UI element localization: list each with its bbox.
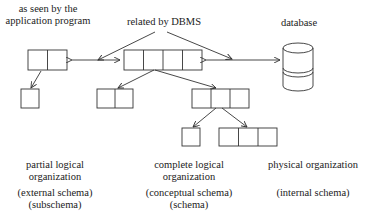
external-schema-line1: (external schema) — [10, 187, 100, 199]
arrow-external-to-child — [31, 71, 41, 88]
arrow-conceptual-to-right-child — [155, 70, 216, 88]
app-view-label-line2: application program — [0, 15, 96, 27]
physical-title-line1: physical organization — [258, 159, 368, 171]
arrow-dbms-to-left-link — [98, 32, 155, 60]
arrow-right-child-to-grandchild-left — [193, 108, 216, 127]
external-title-line2: organization — [10, 171, 100, 183]
arrow-right-child-to-grandchild-right — [222, 108, 247, 127]
physical-column-label: physical organization (internal schema) — [258, 159, 368, 199]
external-child-box — [21, 89, 39, 108]
conceptual-child-box-right — [192, 89, 249, 108]
conceptual-column-label: complete logical organization (conceptua… — [134, 159, 244, 211]
external-schema-line2: (subschema) — [10, 199, 100, 211]
external-column-label: partial logical organization (external s… — [10, 159, 100, 211]
arrow-dbms-to-right-link — [167, 32, 232, 59]
conceptual-title-line1: complete logical — [134, 159, 244, 171]
conceptual-record-box — [124, 50, 202, 70]
external-title-line1: partial logical — [10, 159, 100, 171]
conceptual-grandchild-box-right — [219, 128, 277, 146]
database-cylinder-icon — [283, 43, 313, 91]
external-record-box — [28, 50, 67, 70]
conceptual-child-box-left — [97, 89, 133, 108]
conceptual-schema-line2: (schema) — [134, 199, 244, 211]
database-label: database — [270, 17, 328, 29]
app-view-label-line1: as seen by the — [0, 3, 96, 15]
physical-schema-line1: (internal schema) — [258, 187, 368, 199]
dbms-label: related by DBMS — [120, 16, 208, 28]
app-view-label: as seen by the application program — [0, 3, 96, 27]
arrow-conceptual-to-left-child — [118, 70, 154, 88]
conceptual-title-line2: organization — [134, 171, 244, 183]
conceptual-schema-line1: (conceptual schema) — [134, 187, 244, 199]
conceptual-grandchild-box-left — [182, 128, 200, 146]
